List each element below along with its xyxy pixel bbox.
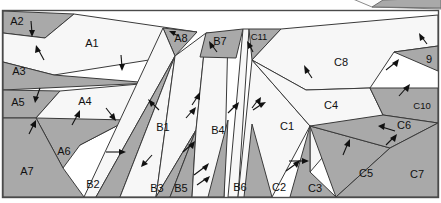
cell-label-B1: B1 [156,121,169,133]
cell-label-C6: C6 [397,119,411,131]
cell-label-B2: B2 [86,178,99,190]
cell-label-C4: C4 [324,99,338,111]
cell-label-C2: C2 [272,181,286,193]
cell-label-B6: B6 [233,181,246,193]
cell-label-C10: C10 [413,100,430,111]
cell-label-A7: A7 [20,165,33,177]
cell-label-C8: C8 [334,56,348,68]
cell-label-A1: A1 [85,37,98,49]
cell-label-C5: C5 [359,167,373,179]
partition-diagram-svg: A1A2A3A4A5A6A7A8B1B2B3B4B5B6B7C1C2C3C4C5… [0,0,441,203]
top-fragment [341,0,441,9]
cell-label-A2: A2 [10,15,23,27]
cell-label-C7: C7 [410,168,424,180]
cell-label-A4: A4 [78,95,91,107]
cell-label-C9: 9 [426,53,432,65]
cell-label-C3: C3 [308,182,322,194]
cell-label-A8: A8 [174,32,187,44]
cell-label-A5: A5 [11,96,24,108]
cell-label-B7: B7 [213,35,226,47]
figure-root: A1A2A3A4A5A6A7A8B1B2B3B4B5B6B7C1C2C3C4C5… [0,0,441,203]
cell-label-B3: B3 [150,182,163,194]
cell-label-C1: C1 [280,120,294,132]
top-fragment-dark [372,0,441,8]
cell-label-B4: B4 [211,124,224,136]
cell-label-C11: C11 [251,31,268,42]
cell-label-B5: B5 [174,182,187,194]
cell-label-A3: A3 [12,65,25,77]
cell-label-A6: A6 [57,145,70,157]
